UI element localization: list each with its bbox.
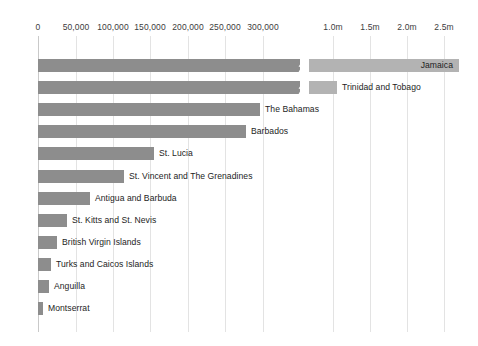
bar-label: Barbados <box>251 126 288 136</box>
bar-segment-left <box>38 59 300 72</box>
bar-row[interactable]: St. Lucia <box>38 147 478 160</box>
bar-row[interactable]: Montserrat <box>38 302 478 315</box>
bar-label: St. Kitts and St. Nevis <box>72 215 156 225</box>
bar-chart: 050,000100,000150,000200,000250,000300,0… <box>0 0 478 346</box>
bar-row[interactable]: British Virgin Islands <box>38 236 478 249</box>
bar-row[interactable]: Antigua and Barbuda <box>38 192 478 205</box>
bar-row[interactable]: Trinidad and Tobago <box>38 81 478 94</box>
x-tick-label: 150,000 <box>134 22 165 32</box>
x-tick-label: 250,000 <box>209 22 240 32</box>
x-tick-label: 100,000 <box>97 22 128 32</box>
bar-segment-right <box>305 81 337 94</box>
bar-label: Turks and Caicos Islands <box>56 259 153 269</box>
bar-label: Antigua and Barbuda <box>95 193 177 203</box>
bar-row[interactable]: St. Vincent and The Grenadines <box>38 170 478 183</box>
bar-row[interactable]: St. Kitts and St. Nevis <box>38 214 478 227</box>
bar-row[interactable]: Jamaica <box>38 59 478 72</box>
bar-row[interactable]: Turks and Caicos Islands <box>38 258 478 271</box>
bar <box>38 258 51 271</box>
bar-row[interactable]: Barbados <box>38 125 478 138</box>
bar-label: Trinidad and Tobago <box>342 82 421 92</box>
bar <box>38 280 49 293</box>
bar <box>38 147 154 160</box>
x-tick-label: 200,000 <box>172 22 203 32</box>
bar-row[interactable]: Anguilla <box>38 280 478 293</box>
bar-row[interactable]: The Bahamas <box>38 103 478 116</box>
bar <box>38 302 43 315</box>
bar-label: British Virgin Islands <box>62 237 141 247</box>
bar-label: St. Lucia <box>159 148 193 158</box>
bar <box>38 236 57 249</box>
x-tick-label: 1.0m <box>323 22 342 32</box>
x-tick-label: 2.5m <box>434 22 453 32</box>
plot-area: 050,000100,000150,000200,000250,000300,0… <box>0 0 478 346</box>
bar <box>38 192 90 205</box>
bar-segment-left <box>38 81 300 94</box>
bar <box>38 103 260 116</box>
bar-label: Jamaica <box>421 60 453 70</box>
x-tick-label: 50,000 <box>63 22 90 32</box>
bar-label: The Bahamas <box>265 104 319 114</box>
bar-label: St. Vincent and The Grenadines <box>129 171 253 181</box>
bar-label: Anguilla <box>54 281 85 291</box>
axis-break-icon <box>298 58 307 73</box>
axis-break-icon <box>298 80 307 95</box>
bar <box>38 214 67 227</box>
x-tick-label: 300,000 <box>247 22 278 32</box>
x-tick-label: 2.0m <box>397 22 416 32</box>
bar <box>38 170 124 183</box>
bar-label: Montserrat <box>48 303 90 313</box>
bar <box>38 125 246 138</box>
x-tick-label: 1.5m <box>360 22 379 32</box>
x-tick-label: 0 <box>36 22 41 32</box>
